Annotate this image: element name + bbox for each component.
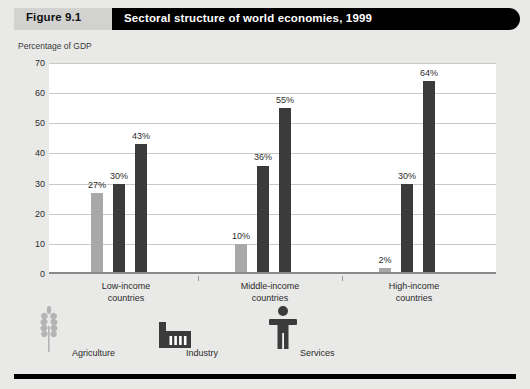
category-label: High-incomecountries [349,281,479,304]
legend-label-services: Services [300,348,335,358]
y-axis-tick-label: 0 [3,269,45,279]
y-axis-tick-label: 70 [3,58,45,68]
bar-industry-1 [113,184,125,274]
category-label: Low-incomecountries [61,281,191,304]
bar-value-label: 64% [409,68,449,78]
gridline [49,63,496,64]
bar-value-label: 36% [243,152,283,162]
y-axis-tick-label: 50 [3,118,45,128]
category-label-line: countries [61,293,191,305]
x-axis-tickmark [342,276,343,281]
x-axis-baseline [49,272,496,274]
wheat-icon [38,306,60,358]
category-label-line: countries [349,293,479,305]
x-axis-tickmark [198,276,199,281]
y-axis-tick-label: 60 [3,88,45,98]
figure-header: Figure 9.1 Sectoral structure of world e… [0,8,530,30]
bar-services-2 [279,108,291,274]
figure-title: Sectoral structure of world economies, 1… [124,12,372,24]
category-label-line: countries [205,293,335,305]
factory-icon [158,318,192,352]
wheat-icon-svg [38,306,60,354]
legend-label-agriculture: Agriculture [72,348,115,358]
person-icon-svg [268,305,298,351]
y-axis-tick-labels: 706050403020100 [0,63,45,274]
bar-value-label: 2% [365,255,405,265]
bar-value-label: 55% [265,95,305,105]
figure-number-label: Figure 9.1 [26,11,81,23]
bar-value-label: 43% [121,131,161,141]
figure-container: Figure 9.1 Sectoral structure of world e… [0,0,530,389]
y-axis-tick-label: 40 [3,148,45,158]
bottom-rule-cap [502,374,516,379]
y-axis-title: Percentage of GDP [18,41,92,51]
bottom-rule [14,374,516,379]
y-axis-tick-label: 10 [3,239,45,249]
category-label-line: High-income [349,281,479,293]
y-axis-tick-label: 20 [3,209,45,219]
factory-icon-svg [158,318,192,348]
category-label-line: Low-income [61,281,191,293]
bar-agriculture-1 [91,193,103,274]
category-label: Middle-incomecountries [205,281,335,304]
bar-industry-2 [257,166,269,275]
bar-services-1 [135,144,147,274]
bar-value-label: 30% [387,171,427,181]
bar-value-label: 10% [221,231,261,241]
person-icon [268,305,298,355]
y-axis-tick-label: 30 [3,179,45,189]
bar-value-label: 30% [99,171,139,181]
bar-agriculture-2 [235,244,247,274]
category-label-line: Middle-income [205,281,335,293]
bar-value-label: 27% [77,180,117,190]
legend-label-industry: Industry [186,348,218,358]
